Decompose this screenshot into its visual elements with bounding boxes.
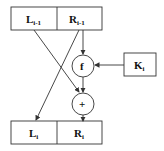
key-label: Ki: [134, 59, 145, 73]
bottom-left-label: Li: [29, 127, 38, 141]
top-right-label: Ri-1: [69, 13, 85, 27]
xor-label: +: [79, 98, 85, 110]
top-left-label: Li-1: [26, 13, 42, 27]
top-block: [11, 7, 102, 30]
bottom-right-label: Ri: [74, 127, 84, 141]
f-label: f: [80, 60, 84, 72]
bottom-block: [11, 121, 102, 144]
feistel-diagram: Li-1 Ri-1 Li Ri f + Ki: [0, 0, 164, 151]
